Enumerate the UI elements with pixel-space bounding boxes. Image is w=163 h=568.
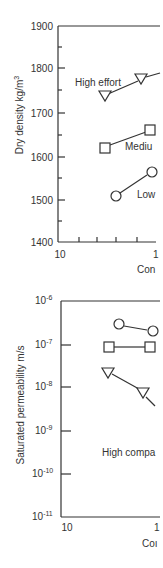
x-axis-title: Con xyxy=(137,264,155,275)
y-tick-label: 1700 xyxy=(31,108,54,119)
y-tick-label: 10-9 xyxy=(35,424,52,436)
circle-marker xyxy=(111,191,121,201)
x-tick-label: 1 xyxy=(153,249,159,260)
y-axis-title: Dry density kg/m3 xyxy=(13,76,25,154)
y-axis-title: Saturated permeability m/s xyxy=(15,346,26,465)
square-marker xyxy=(145,125,155,135)
series-medium xyxy=(104,342,155,352)
x-axis-title: Coı xyxy=(142,538,158,549)
series-low xyxy=(114,319,158,336)
x-tick-label: 10 xyxy=(61,522,73,533)
x-tick-label: 1 xyxy=(154,522,160,533)
circle-marker xyxy=(147,167,157,177)
circle-marker xyxy=(114,319,124,329)
triangle-down-marker xyxy=(99,91,111,101)
y-tick-label: 1900 xyxy=(31,21,54,32)
triangle-down-marker xyxy=(135,74,147,84)
series-label-medium: Mediu xyxy=(125,141,152,152)
triangle-down-marker xyxy=(102,368,114,378)
dry-density-chart xyxy=(58,26,160,242)
series-label-low: Low xyxy=(137,189,156,200)
y-tick-label: 10-7 xyxy=(35,338,52,350)
series-high xyxy=(102,368,155,406)
x-tick-label: 10 xyxy=(54,249,66,260)
figure: 1900 1800 1700 1600 1500 1400 10 1 Con D… xyxy=(0,0,163,568)
annotation-high-compaction: High compa xyxy=(102,447,156,458)
y-tick-label: 10-10 xyxy=(32,467,53,479)
y-tick-label: 1400 xyxy=(31,237,54,248)
square-marker xyxy=(100,143,110,153)
bottom-y-tick-labels: 10-6 10-7 10-8 10-9 10-10 10-11 xyxy=(32,294,53,522)
y-tick-label: 1600 xyxy=(31,152,54,163)
series-label-high-effort: High effort xyxy=(75,77,121,88)
y-tick-label: 1500 xyxy=(31,195,54,206)
y-tick-label: 1800 xyxy=(31,63,54,74)
y-tick-label: 10-11 xyxy=(32,510,53,522)
square-marker xyxy=(145,342,155,352)
square-marker xyxy=(104,342,114,352)
permeability-chart xyxy=(61,301,160,517)
circle-marker xyxy=(148,326,158,336)
triangle-down-marker xyxy=(137,388,149,398)
top-y-tick-labels: 1900 1800 1700 1600 1500 1400 xyxy=(31,21,54,248)
y-tick-label: 10-6 xyxy=(35,294,52,306)
y-tick-label: 10-8 xyxy=(35,380,52,392)
